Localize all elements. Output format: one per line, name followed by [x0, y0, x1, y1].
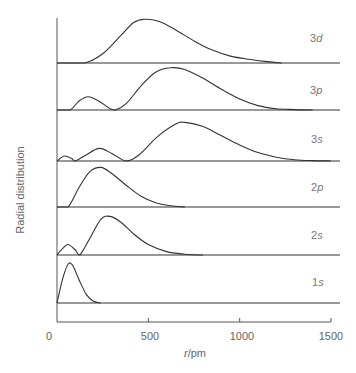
y-axis-label: Radial distribution: [14, 146, 26, 233]
curve-1s: [57, 263, 101, 303]
curve-2p: [57, 167, 185, 207]
x-tick-label-1000: 1000: [230, 330, 254, 342]
curve-3p: [57, 68, 313, 110]
label-1s: 1s: [312, 276, 324, 288]
label-3s: 3s: [311, 133, 323, 145]
x-tick-label-0: 0: [46, 330, 52, 342]
label-2s: 2s: [311, 229, 323, 241]
x-tick-label-1500: 1500: [319, 330, 343, 342]
curve-3s: [57, 122, 331, 161]
label-3d: 3d: [310, 32, 323, 44]
radial-distribution-chart: Radial distribution 0 500 1000 1500 r/pm…: [0, 0, 356, 373]
curve-3d: [57, 19, 282, 63]
curve-2s: [57, 216, 203, 255]
x-tick-label-500: 500: [141, 330, 159, 342]
x-axis-label: r/pm: [184, 347, 206, 359]
label-2p: 2p: [311, 181, 323, 193]
label-3p: 3p: [310, 84, 322, 96]
